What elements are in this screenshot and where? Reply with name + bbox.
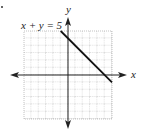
y-axis-label: y xyxy=(66,4,71,15)
x-axis-label: x xyxy=(131,69,136,80)
equation-label: x + y = 5 xyxy=(21,20,62,31)
